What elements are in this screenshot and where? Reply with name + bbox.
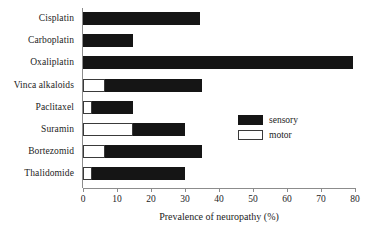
bar-sensory xyxy=(83,34,133,47)
y-axis-category-label: Suramin xyxy=(0,124,74,134)
x-axis-tick-label: 80 xyxy=(340,194,369,205)
x-axis-tick xyxy=(83,188,84,192)
y-axis-category-label: Carboplatin xyxy=(0,35,74,45)
bar-motor xyxy=(83,167,92,180)
x-axis-title: Prevalence of neuropathy (%) xyxy=(83,211,355,223)
x-axis-tick xyxy=(185,188,186,192)
x-axis-tick xyxy=(219,188,220,192)
x-axis-tick-label: 0 xyxy=(68,194,98,205)
y-axis-category-label: Cisplatin xyxy=(0,13,74,23)
bar-motor xyxy=(83,79,105,92)
bar-motor xyxy=(83,123,133,136)
bar-sensory xyxy=(83,167,185,180)
legend-item: motor xyxy=(238,128,338,143)
y-axis-category-label: Vinca alkaloids xyxy=(0,80,74,90)
legend-swatch-sensory xyxy=(238,115,263,125)
bar-group xyxy=(83,53,355,75)
y-axis-category-label: Oxaliplatin xyxy=(0,57,74,67)
plot-area xyxy=(83,8,355,188)
x-axis-tick-label: 20 xyxy=(136,194,166,205)
x-axis-tick-label: 60 xyxy=(272,194,302,205)
bar-sensory xyxy=(83,56,353,69)
y-axis-category-label: Paclitaxel xyxy=(0,102,74,112)
legend-label: sensory xyxy=(269,113,298,127)
x-axis-tick xyxy=(321,188,322,192)
x-axis-tick xyxy=(355,188,356,192)
y-axis-category-label: Thalidomide xyxy=(0,168,74,178)
x-axis-tick-label: 10 xyxy=(102,194,132,205)
neuropathy-prevalence-bar-chart: CisplatinCarboplatinOxaliplatinVinca alk… xyxy=(0,0,369,239)
bar-group xyxy=(83,142,355,164)
x-axis-tick xyxy=(287,188,288,192)
bar-motor xyxy=(83,145,105,158)
bar-group xyxy=(83,164,355,186)
x-axis-tick-label: 50 xyxy=(238,194,268,205)
legend-item: sensory xyxy=(238,113,338,128)
y-axis-category-labels: CisplatinCarboplatinOxaliplatinVinca alk… xyxy=(0,8,78,188)
x-axis-tick xyxy=(253,188,254,192)
bar-group xyxy=(83,31,355,53)
legend: sensorymotor xyxy=(238,113,338,143)
legend-label: motor xyxy=(269,128,292,142)
legend-swatch-motor xyxy=(238,130,263,140)
bar-motor xyxy=(83,101,92,114)
y-axis-category-label: Bortezomid xyxy=(0,146,74,156)
bar-sensory xyxy=(83,12,200,25)
x-axis-tick xyxy=(151,188,152,192)
bar-group xyxy=(83,9,355,31)
bar-group xyxy=(83,76,355,98)
x-axis-tick-label: 40 xyxy=(204,194,234,205)
x-axis-tick-label: 30 xyxy=(170,194,200,205)
x-axis-tick xyxy=(117,188,118,192)
x-axis-tick-label: 70 xyxy=(306,194,336,205)
